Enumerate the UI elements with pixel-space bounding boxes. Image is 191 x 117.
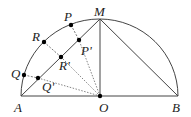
point-q-prime: [36, 76, 40, 80]
semicircle-diagram: A B O M P R Q P' R' Q': [0, 0, 191, 117]
point-q: [22, 73, 26, 77]
label-p-prime: P': [80, 43, 92, 58]
label-m: M: [93, 4, 106, 19]
point-o: [98, 94, 102, 98]
label-o: O: [99, 100, 109, 115]
label-r-prime: R': [58, 58, 70, 73]
segment-p-p2: [71, 25, 79, 40]
point-r: [42, 40, 46, 44]
label-p: P: [63, 9, 72, 24]
label-a: A: [13, 100, 22, 115]
point-p-prime: [77, 38, 81, 42]
chord-mb: [100, 19, 178, 96]
segment-r-r2: [44, 42, 61, 57]
label-q: Q: [11, 66, 21, 81]
label-b: B: [172, 100, 180, 115]
label-r: R: [31, 29, 40, 44]
label-q-prime: Q': [42, 79, 54, 94]
